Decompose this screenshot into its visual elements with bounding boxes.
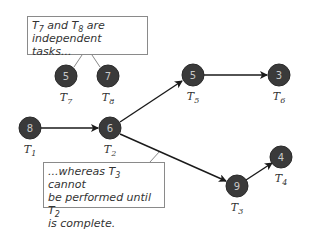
node-value: 5 xyxy=(63,71,69,82)
node-label: T7 xyxy=(60,91,73,106)
callout-line-2: be performed until T2 xyxy=(48,191,160,217)
callout-dependency: ...whereas T3 cannot be performed until … xyxy=(43,162,165,208)
node-value: 3 xyxy=(276,70,282,81)
node-value: 5 xyxy=(190,70,196,81)
node-label: T1 xyxy=(24,143,36,158)
node-t8: 7 T8 xyxy=(97,65,119,106)
callout-connector-bottom xyxy=(150,151,160,162)
node-label: T2 xyxy=(104,143,116,158)
node-label: T3 xyxy=(231,201,243,216)
node-t3: 9 T3 xyxy=(226,175,248,216)
node-t2: 6 T2 xyxy=(99,117,121,158)
node-label: T4 xyxy=(275,172,287,187)
node-label: T8 xyxy=(102,91,114,106)
node-value: 6 xyxy=(107,123,113,134)
node-t1: 8 T1 xyxy=(19,117,41,158)
edge-t2-t5 xyxy=(120,81,182,122)
node-t7: 5 T7 xyxy=(55,65,77,106)
node-value: 4 xyxy=(278,152,284,163)
node-label: T5 xyxy=(187,90,199,105)
node-value: 9 xyxy=(234,181,240,192)
node-value: 8 xyxy=(27,123,33,134)
node-t5: 5 T5 xyxy=(182,64,204,105)
node-t4: 4 T4 xyxy=(270,146,292,187)
callout-independent-tasks: T7 and T8 are independent tasks... xyxy=(27,16,148,55)
callout-line-2: independent tasks... xyxy=(32,32,143,58)
callout-line-1: ...whereas T3 cannot xyxy=(48,165,160,191)
callout-line-3: is complete. xyxy=(48,217,160,230)
node-value: 7 xyxy=(105,71,111,82)
node-label: T6 xyxy=(273,90,285,105)
callout-line-1: T7 and T8 are xyxy=(32,19,143,32)
edge-t3-t4 xyxy=(246,163,272,180)
node-t6: 3 T6 xyxy=(268,64,290,105)
